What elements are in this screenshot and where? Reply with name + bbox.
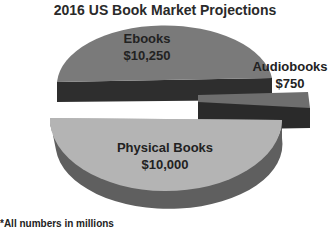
label-ebooks: Ebooks $10,250 bbox=[92, 30, 202, 64]
label-physical-books: Physical Books $10,000 bbox=[100, 139, 230, 173]
footnote: *All numbers in millions bbox=[0, 218, 114, 229]
label-audiobooks: Audiobooks $750 bbox=[245, 58, 330, 92]
label-audiobooks-name: Audiobooks bbox=[245, 58, 330, 75]
label-ebooks-name: Ebooks bbox=[92, 30, 202, 47]
label-ebooks-value: $10,250 bbox=[92, 47, 202, 64]
label-physical-books-value: $10,000 bbox=[100, 156, 230, 173]
label-audiobooks-value: $750 bbox=[245, 75, 330, 92]
label-physical-books-name: Physical Books bbox=[100, 139, 230, 156]
